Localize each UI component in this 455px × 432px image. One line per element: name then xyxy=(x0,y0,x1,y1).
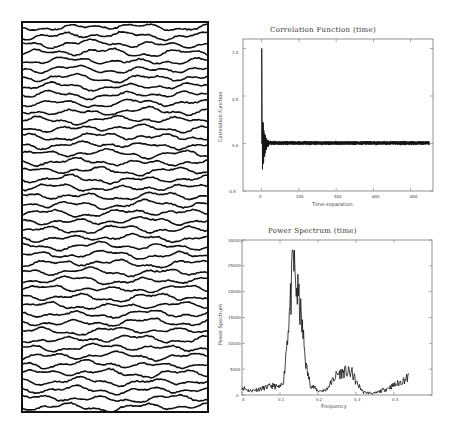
y-tick: 10000 xyxy=(228,341,241,346)
x-tick: 0.1 xyxy=(278,397,284,402)
y-axis-label: Power Spectrum xyxy=(217,304,223,345)
y-tick: 0.0 xyxy=(232,143,238,148)
x-tick: 800 xyxy=(410,194,418,199)
x-tick: 0 xyxy=(242,397,245,402)
y-tick: 20000 xyxy=(228,289,241,294)
x-axis-label: Time-separation xyxy=(312,201,353,207)
x-tick: 0.2 xyxy=(316,397,322,402)
x-tick: 0.4 xyxy=(392,397,398,402)
y-tick: 30000 xyxy=(228,238,241,243)
y-tick: 5000 xyxy=(230,367,240,372)
x-axis-label: Frequency xyxy=(321,403,347,409)
correlation-chart: Correlation Function (time) 1.0 0.5 0.0 … xyxy=(0,0,455,215)
y-tick: 25000 xyxy=(228,263,241,268)
power-spectrum-plot-area xyxy=(242,240,432,395)
y-tick: 0.5 xyxy=(232,97,238,102)
y-tick: 0 xyxy=(236,393,239,398)
x-tick: 0 xyxy=(259,194,262,199)
y-axis-label: Correlation Function xyxy=(217,92,223,142)
chart-title: Power Spectrum (time) xyxy=(268,227,357,235)
power-spectrum-chart: Power Spectrum (time) 30000 25000 20000 … xyxy=(0,215,455,432)
x-tick: 0.3 xyxy=(354,397,360,402)
x-tick: 200 xyxy=(296,194,304,199)
correlation-plot-area xyxy=(243,39,433,191)
y-tick: 1.0 xyxy=(232,50,238,55)
chart-title: Correlation Function (time) xyxy=(270,26,376,34)
y-tick: -0.5 xyxy=(228,189,236,194)
x-tick: 600 xyxy=(372,194,380,199)
x-tick: 400 xyxy=(334,194,342,199)
y-tick: 15000 xyxy=(228,315,241,320)
